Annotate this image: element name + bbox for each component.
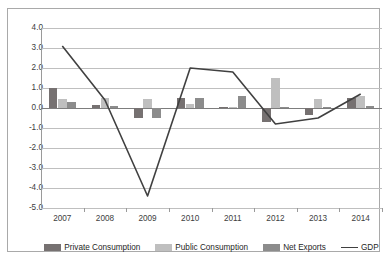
x-axis-tick-label: 2009 xyxy=(126,214,169,223)
y-axis-tick-label: -4.0 xyxy=(13,184,43,192)
x-axis-tick-mark xyxy=(382,208,383,212)
line-swatch-gdp-icon xyxy=(341,247,358,248)
x-axis-tick-label: 2013 xyxy=(297,214,340,223)
x-axis-tick-mark xyxy=(84,208,85,212)
x-axis-tick-label: 2012 xyxy=(254,214,297,223)
legend-item-net-exports[interactable]: Net Exports xyxy=(263,243,326,252)
chart-screenshot: 4.03.02.01.00.0-1.0-2.0-3.0-4.0-5.0 2007… xyxy=(0,0,387,260)
square-swatch-private-icon xyxy=(44,244,61,251)
x-axis-tick-label: 2014 xyxy=(339,214,382,223)
x-axis-tick-mark xyxy=(126,208,127,212)
x-axis-tick-mark xyxy=(339,208,340,212)
legend-label: Private Consumption xyxy=(64,243,140,252)
legend-label: GDP xyxy=(361,243,379,252)
y-axis-tick-label: -2.0 xyxy=(13,144,43,152)
x-axis-tick-label: 2010 xyxy=(169,214,212,223)
y-axis-tick-label: -3.0 xyxy=(13,164,43,172)
x-axis-tick-mark xyxy=(169,208,170,212)
square-swatch-netexports-icon xyxy=(263,244,280,251)
square-swatch-public-icon xyxy=(155,244,172,251)
y-axis-tick-label: -5.0 xyxy=(13,204,43,212)
legend-item-public-consumption[interactable]: Public Consumption xyxy=(155,243,248,252)
x-axis-tick-label: 2008 xyxy=(84,214,127,223)
y-axis-tick-label: 4.0 xyxy=(13,24,43,32)
x-axis-tick-mark xyxy=(212,208,213,212)
y-axis-tick-label: 3.0 xyxy=(13,44,43,52)
legend-label: Public Consumption xyxy=(175,243,248,252)
gdp-line-series xyxy=(41,28,382,208)
x-axis-tick-mark xyxy=(297,208,298,212)
plot-area: 4.03.02.01.00.0-1.0-2.0-3.0-4.0-5.0 2007… xyxy=(41,28,382,208)
x-axis-tick-mark xyxy=(254,208,255,212)
legend-item-gdp[interactable]: GDP xyxy=(341,243,379,252)
y-axis-tick-label: 0.0 xyxy=(13,104,43,112)
chart-frame: 4.03.02.01.00.0-1.0-2.0-3.0-4.0-5.0 2007… xyxy=(7,8,380,252)
gdp-polyline xyxy=(62,46,360,196)
legend-item-private-consumption[interactable]: Private Consumption xyxy=(44,243,140,252)
y-axis-tick-label: 1.0 xyxy=(13,84,43,92)
legend-label: Net Exports xyxy=(283,243,326,252)
x-axis-tick-label: 2011 xyxy=(212,214,255,223)
y-axis-tick-label: 2.0 xyxy=(13,64,43,72)
chart-legend: Private ConsumptionPublic ConsumptionNet… xyxy=(41,240,382,254)
y-axis-tick-label: -1.0 xyxy=(13,124,43,132)
x-axis-tick-label: 2007 xyxy=(41,214,84,223)
